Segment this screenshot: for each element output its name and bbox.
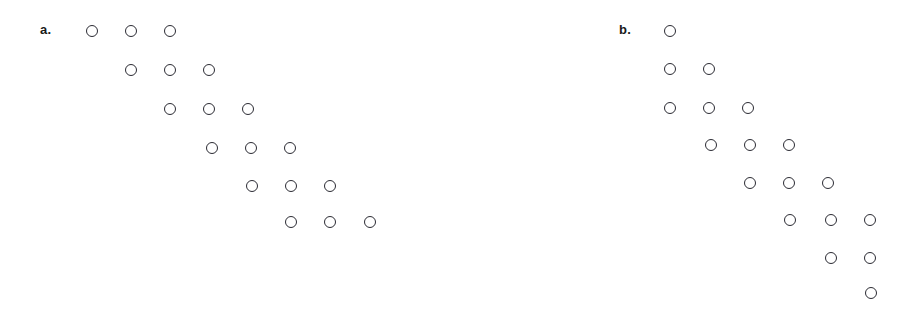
- circle-marker: [703, 102, 715, 114]
- figure-canvas: a.b.: [0, 0, 911, 317]
- circle-marker: [784, 214, 796, 226]
- circle-marker: [744, 139, 756, 151]
- panel-b: b.: [0, 0, 911, 317]
- circle-marker: [744, 177, 756, 189]
- circle-marker: [864, 252, 876, 264]
- circle-marker: [864, 214, 876, 226]
- circle-marker: [703, 63, 715, 75]
- circle-marker: [783, 139, 795, 151]
- circle-marker: [742, 102, 754, 114]
- circle-marker: [664, 102, 676, 114]
- circle-marker: [705, 139, 717, 151]
- circle-marker: [664, 63, 676, 75]
- panel-b-label: b.: [619, 23, 631, 36]
- circle-marker: [783, 177, 795, 189]
- circle-marker: [865, 287, 877, 299]
- circle-marker: [825, 252, 837, 264]
- circle-marker: [822, 177, 834, 189]
- circle-marker: [664, 25, 676, 37]
- circle-marker: [825, 214, 837, 226]
